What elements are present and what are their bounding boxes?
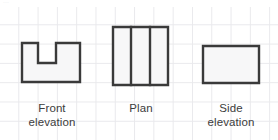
worksheet-canvas: ... Front elevation Plan Side elevation xyxy=(0,0,278,140)
side-elevation-label: Side elevation xyxy=(188,101,274,129)
front-elevation-label: Front elevation xyxy=(8,101,96,129)
plan-shape xyxy=(113,27,168,85)
plan-label: Plan xyxy=(104,101,178,115)
front-elevation-shape xyxy=(22,43,80,82)
side-elevation-shape xyxy=(203,46,259,83)
